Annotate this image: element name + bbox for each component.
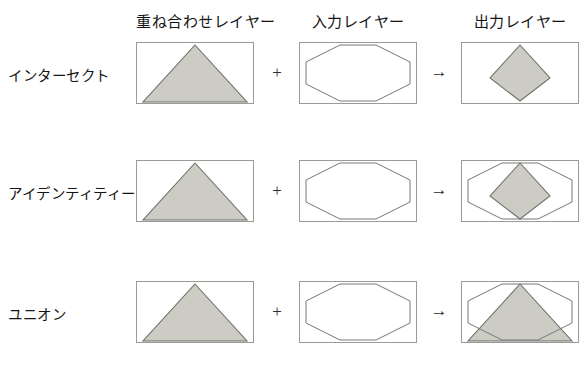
cell-identity-overlay xyxy=(136,160,254,222)
cell-intersect-output xyxy=(461,42,579,104)
cell-union-output xyxy=(461,281,579,343)
row-label-union: ユニオン xyxy=(8,303,66,324)
row-label-intersect: インターセクト xyxy=(8,64,110,85)
operator-plus-intersect: + xyxy=(262,64,292,81)
cell-union-overlay xyxy=(136,281,254,343)
cell-intersect-input xyxy=(299,42,417,104)
cell-identity-output xyxy=(461,160,579,222)
cell-intersect-overlay xyxy=(136,42,254,104)
cell-identity-input xyxy=(299,160,417,222)
operator-arrow-identity: → xyxy=(424,181,454,198)
operator-plus-union: + xyxy=(262,303,292,320)
column-header-overlay-layer: 重ね合わせレイヤー xyxy=(136,10,254,31)
operator-arrow-intersect: → xyxy=(424,63,454,80)
operator-plus-identity: + xyxy=(262,182,292,199)
column-header-output-layer: 出力レイヤー xyxy=(461,10,579,31)
operator-arrow-union: → xyxy=(424,302,454,319)
column-header-input-layer: 入力レイヤー xyxy=(299,10,417,31)
operation-diagram: 重ね合わせレイヤー 入力レイヤー 出力レイヤー インターセクト + → アイデン… xyxy=(0,0,587,367)
cell-union-input xyxy=(299,281,417,343)
row-label-identity: アイデンティティー xyxy=(8,182,136,203)
